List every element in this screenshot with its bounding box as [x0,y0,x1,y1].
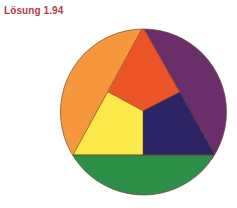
color-wheel-diagram [0,0,237,208]
green-segment [55,155,235,205]
